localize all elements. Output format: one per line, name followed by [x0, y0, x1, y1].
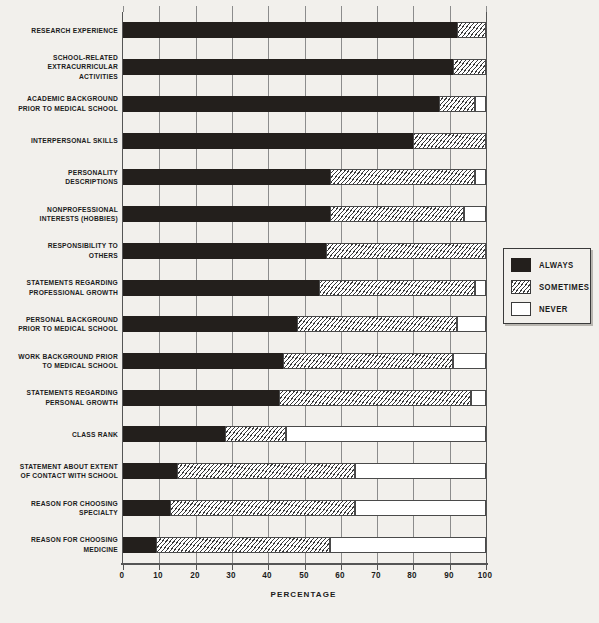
tick-mark-top [159, 6, 160, 12]
bar-segment-never [464, 206, 486, 222]
bar-segment-never [453, 353, 486, 369]
bar-segment-sometimes [283, 353, 454, 369]
bar-row [123, 426, 486, 442]
bar-segment-sometimes [297, 316, 457, 332]
category-label: RESEARCH EXPERIENCE [16, 26, 118, 35]
bar-segment-sometimes [453, 59, 486, 75]
bar-row [123, 500, 486, 516]
legend-label-always: ALWAYS [539, 260, 574, 270]
bar-row [123, 169, 486, 185]
bar-segment-always [123, 280, 319, 296]
bar-segment-never [330, 537, 486, 553]
legend-label-sometimes: SOMETIMES [539, 282, 589, 292]
bar-segment-sometimes [177, 463, 355, 479]
tick-mark-top [377, 6, 378, 12]
legend-label-never: NEVER [539, 304, 568, 314]
x-tick-label: 70 [371, 570, 381, 580]
bar-row [123, 353, 486, 369]
bar-segment-always [123, 316, 297, 332]
category-label: ACADEMIC BACKGROUND PRIOR TO MEDICAL SCH… [16, 94, 118, 113]
bar-segment-sometimes [279, 390, 471, 406]
category-label: STATEMENTS REGARDING PERSONAL GROWTH [16, 388, 118, 407]
bar-segment-always [123, 133, 413, 149]
bar-segment-sometimes [225, 426, 287, 442]
tick-mark-top [450, 6, 451, 12]
bar-segment-sometimes [326, 243, 486, 259]
x-tick-label: 40 [262, 570, 272, 580]
chart-legend: ALWAYS SOMETIMES NEVER [503, 248, 591, 324]
bar-row [123, 96, 486, 112]
bar-segment-sometimes [457, 22, 486, 38]
x-tick-label: 80 [408, 570, 418, 580]
x-tick-label: 30 [226, 570, 236, 580]
x-tick-label: 10 [154, 570, 164, 580]
legend-item-always: ALWAYS [511, 257, 577, 272]
tick-mark-top [341, 6, 342, 12]
bar-segment-always [123, 22, 457, 38]
x-tick-label: 0 [120, 570, 125, 580]
category-label: SCHOOL-RELATED EXTRACURRICULAR ACTIVITIE… [16, 53, 118, 81]
category-label: WORK BACKGROUND PRIOR TO MEDICAL SCHOOL [16, 352, 118, 371]
category-label: REASON FOR CHOOSING MEDICINE [16, 535, 118, 554]
bar-segment-never [355, 463, 486, 479]
x-axis-line [121, 563, 487, 565]
bar-row [123, 22, 486, 38]
bar-row [123, 316, 486, 332]
tick-mark-top [123, 6, 124, 12]
bar-segment-sometimes [170, 500, 355, 516]
tick-mark-top [305, 6, 306, 12]
bar-row [123, 390, 486, 406]
bar-segment-sometimes [330, 169, 475, 185]
bar-row [123, 537, 486, 553]
bar-segment-never [355, 500, 486, 516]
bar-segment-sometimes [156, 537, 330, 553]
legend-swatch-always-icon [511, 258, 531, 272]
x-tick-label: 20 [190, 570, 200, 580]
bar-segment-always [123, 426, 225, 442]
bar-segment-never [475, 96, 486, 112]
bar-segment-never [286, 426, 486, 442]
bar-segment-always [123, 96, 439, 112]
x-tick-label: 100 [478, 570, 492, 580]
bar-segment-always [123, 463, 177, 479]
legend-swatch-sometimes-icon [511, 280, 531, 294]
plot-area [122, 12, 487, 563]
bar-segment-never [457, 316, 486, 332]
bar-segment-never [475, 169, 486, 185]
tick-mark-top [486, 6, 487, 12]
tick-mark-top [413, 6, 414, 12]
category-label: CLASS RANK [16, 430, 118, 439]
category-label: PERSONALITY DESCRIPTIONS [16, 168, 118, 187]
x-tick-label: 50 [299, 570, 309, 580]
x-axis-title: PERCENTAGE [122, 590, 485, 599]
bar-row [123, 206, 486, 222]
legend-swatch-never-icon [511, 302, 531, 316]
bar-segment-always [123, 243, 326, 259]
legend-item-sometimes: SOMETIMES [511, 279, 594, 294]
bar-segment-always [123, 537, 156, 553]
category-label: STATEMENT ABOUT EXTENT OF CONTACT WITH S… [16, 462, 118, 481]
category-label: NONPROFESSIONAL INTERESTS (HOBBIES) [16, 205, 118, 224]
bar-segment-never [475, 280, 486, 296]
x-tick-label: 90 [444, 570, 454, 580]
bar-segment-sometimes [439, 96, 475, 112]
category-label: PERSONAL BACKGROUND PRIOR TO MEDICAL SCH… [16, 315, 118, 334]
category-label: RESPONSIBILITY TO OTHERS [16, 241, 118, 260]
legend-item-never: NEVER [511, 301, 570, 316]
bar-row [123, 59, 486, 75]
plot-inner [123, 12, 486, 563]
bar-row [123, 133, 486, 149]
category-label: REASON FOR CHOOSING SPECIALTY [16, 499, 118, 518]
category-labels: RESEARCH EXPERIENCESCHOOL-RELATED EXTRAC… [0, 0, 118, 560]
bar-row [123, 463, 486, 479]
bar-segment-never [471, 390, 486, 406]
category-label: INTERPERSONAL SKILLS [16, 136, 118, 145]
bar-segment-always [123, 500, 170, 516]
bar-segment-always [123, 353, 283, 369]
bar-segment-always [123, 390, 279, 406]
bar-row [123, 280, 486, 296]
tick-mark-top [232, 6, 233, 12]
bar-row [123, 243, 486, 259]
bar-segment-always [123, 59, 453, 75]
bar-segment-always [123, 169, 330, 185]
